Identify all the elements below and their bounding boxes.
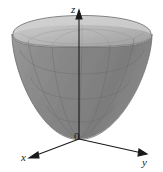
y-axis-label: y bbox=[142, 157, 147, 168]
paraboloid-figure: z x y 0 bbox=[0, 0, 163, 172]
z-axis-label: z bbox=[71, 4, 75, 15]
arrow-up-icon bbox=[76, 10, 82, 19]
arrow-down-right-icon bbox=[138, 149, 147, 156]
paraboloid-surface-plot bbox=[0, 0, 163, 172]
x-axis-label: x bbox=[21, 152, 26, 163]
arrow-down-left-icon bbox=[29, 152, 39, 158]
x-axis-line bbox=[34, 139, 79, 156]
origin-label: 0 bbox=[74, 131, 80, 142]
y-axis-line bbox=[79, 139, 142, 153]
